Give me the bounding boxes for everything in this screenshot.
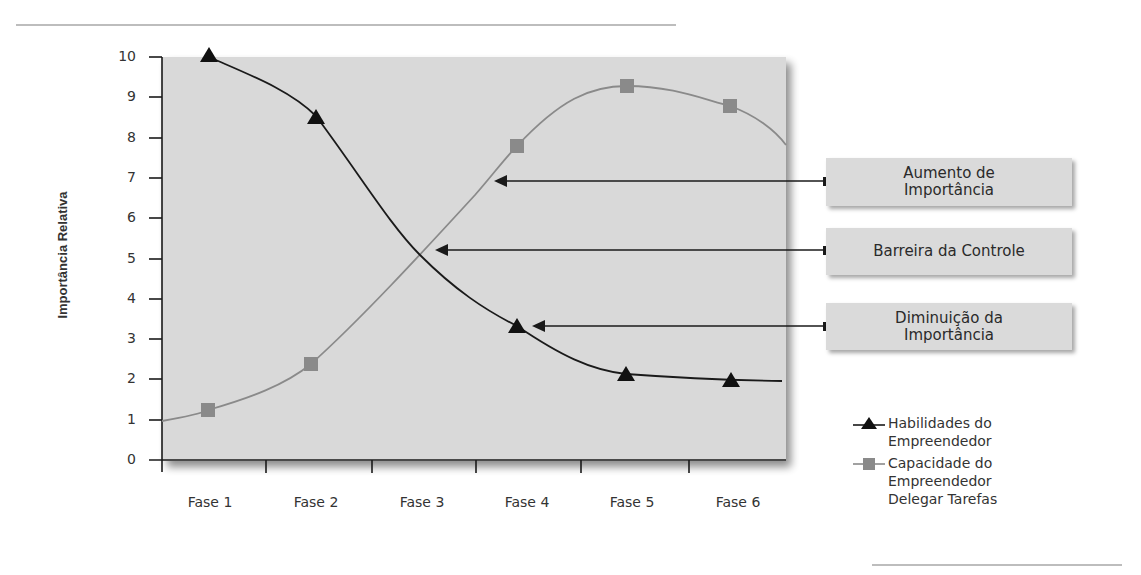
callout-line: Importância bbox=[903, 182, 995, 199]
y-axis-title-text: Importância Relativa bbox=[55, 191, 70, 318]
ytick-label: 7 bbox=[106, 169, 136, 185]
legend-label: Empreendedor bbox=[888, 432, 997, 450]
xtick-label: Fase 6 bbox=[688, 494, 788, 510]
x-axis-ticks bbox=[266, 460, 689, 473]
xtick-label: Fase 3 bbox=[372, 494, 472, 510]
legend-label: Empreendedor bbox=[888, 472, 997, 490]
ytick-label: 2 bbox=[106, 370, 136, 386]
square-marker-icon bbox=[852, 455, 886, 471]
ytick-label: 9 bbox=[106, 88, 136, 104]
xtick-label: Fase 5 bbox=[582, 494, 682, 510]
ytick-label: 0 bbox=[106, 451, 136, 467]
xtick-label: Fase 2 bbox=[266, 494, 366, 510]
callout-line: Diminuição da bbox=[895, 310, 1003, 327]
legend-label: Capacidade do bbox=[888, 454, 997, 472]
callout-line: Barreira da Controle bbox=[873, 243, 1025, 260]
xtick-label: Fase 4 bbox=[477, 494, 577, 510]
ytick-label: 1 bbox=[106, 411, 136, 427]
callout-barreira-controle: Barreira da Controle bbox=[826, 228, 1072, 275]
callout-line: Aumento de bbox=[903, 165, 995, 182]
ytick-label: 6 bbox=[106, 209, 136, 225]
xtick-label: Fase 1 bbox=[160, 494, 260, 510]
legend-item-capacidade: Capacidade do Empreendedor Delegar Taref… bbox=[852, 454, 997, 508]
callout-line: Importância bbox=[895, 327, 1003, 344]
ytick-label: 8 bbox=[106, 129, 136, 145]
legend: Habilidades do Empreendedor Capacidade d… bbox=[852, 414, 997, 512]
triangle-marker-icon bbox=[852, 415, 886, 431]
ytick-label: 4 bbox=[106, 290, 136, 306]
legend-label: Habilidades do bbox=[888, 414, 997, 432]
ytick-label: 10 bbox=[106, 48, 136, 64]
ytick-label: 5 bbox=[106, 250, 136, 266]
ytick-label: 3 bbox=[106, 330, 136, 346]
legend-label: Delegar Tarefas bbox=[888, 490, 997, 508]
callout-aumento-importancia: Aumento de Importância bbox=[826, 158, 1072, 206]
callout-diminuicao-importancia: Diminuição da Importância bbox=[826, 303, 1072, 350]
legend-item-habilidades: Habilidades do Empreendedor bbox=[852, 414, 997, 450]
plot-area bbox=[162, 57, 786, 461]
